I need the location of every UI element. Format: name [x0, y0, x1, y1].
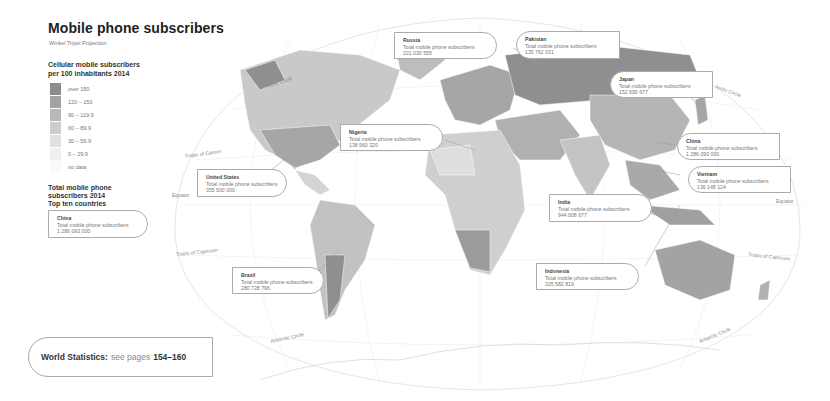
legend-item: 60 – 89.9 — [50, 122, 94, 134]
antarctic-circle-label-west: Antarctic Circle — [270, 331, 304, 344]
world-statistics-reference: World Statistics: see pages 154–160 — [28, 337, 213, 377]
callout-india: India Total mobile phone subscribers 944… — [549, 194, 652, 222]
callout-value: 138 960 320 — [349, 142, 436, 149]
equator-label-east: Equator — [776, 198, 794, 204]
page-range: 154–160 — [153, 352, 186, 362]
projection-subtitle: Winkel Tripel Projection — [49, 40, 106, 46]
top-ten-example-callout: China Total mobile phone subscribers 1 2… — [48, 210, 148, 238]
antarctic-circle-label-east: Antarctic Circle — [698, 326, 732, 344]
legend-label: 0 – 29.9 — [68, 151, 88, 157]
legend-label: 30 – 59.9 — [68, 138, 91, 144]
top-ten-title-line3: Top ten countries — [48, 200, 112, 208]
legend-item: 90 – 119.9 — [50, 109, 94, 121]
legend-item: no data — [50, 161, 94, 173]
map-title: Mobile phone subscribers — [48, 20, 224, 36]
legend-label: 90 – 119.9 — [68, 112, 94, 118]
legend-item: 120 – 150 — [50, 96, 94, 108]
legend-item: over 150 — [50, 83, 94, 95]
legend-title: Cellular mobile subscribers per 100 inha… — [48, 61, 140, 78]
legend-item: 0 – 29.9 — [50, 148, 94, 160]
callout-japan: Japan Total mobile phone subscribers 152… — [610, 71, 713, 98]
legend-title-line1: Cellular mobile subscribers — [48, 61, 140, 70]
see-pages-text: see pages — [111, 352, 150, 362]
top-ten-title-line1: Total mobile phone — [48, 184, 112, 192]
legend-label: no data — [68, 164, 86, 170]
tropic-capricorn-label-east: Tropic of Capricorn — [748, 251, 791, 261]
legend-item: 30 – 59.9 — [50, 135, 94, 147]
callout-value: 152 695 677 — [619, 89, 706, 96]
legend-swatch — [50, 83, 61, 95]
legend-label: 60 – 89.9 — [68, 125, 91, 131]
legend-swatch — [50, 148, 61, 160]
callout-value: 355 500 000 — [206, 187, 280, 194]
top-ten-title-line2: subscribers 2014 — [48, 192, 112, 200]
callout-russia: Russia Total mobile phone subscribers 22… — [394, 32, 497, 59]
legend-label: 120 – 150 — [68, 99, 92, 105]
callout-value: 280 728 796 — [241, 285, 317, 292]
callout-value: 135 762 031 — [525, 49, 613, 56]
legend-swatch — [50, 109, 61, 121]
callout-vietnam: Vietnam Total mobile phone subscribers 1… — [688, 166, 791, 193]
legend-swatch — [50, 161, 61, 173]
callout-china: China Total mobile phone subscribers 1 2… — [677, 133, 780, 160]
callout-value: 944 008 677 — [558, 212, 645, 219]
equator-label-west: Equator — [172, 192, 190, 198]
callout-brazil: Brazil Total mobile phone subscribers 28… — [232, 267, 324, 294]
top-ten-title: Total mobile phone subscribers 2014 Top … — [48, 184, 112, 208]
callout-united-states: United States Total mobile phone subscri… — [197, 169, 287, 197]
callout-value: 1 286 093 000 — [57, 228, 141, 235]
callout-indonesia: Indonesia Total mobile phone subscribers… — [536, 263, 639, 290]
legend-swatch — [50, 122, 61, 134]
tropic-cancer-label: Tropic of Cancer — [184, 148, 222, 159]
callout-value: 1 286 093 000 — [686, 151, 773, 158]
callout-value: 136 148 124 — [697, 184, 784, 191]
legend-swatch — [50, 135, 61, 147]
callout-value: 221 030 555 — [403, 50, 490, 57]
callout-nigeria: Nigeria Total mobile phone subscribers 1… — [340, 124, 443, 151]
legend-label: over 150 — [68, 86, 89, 92]
legend-title-line2: per 100 inhabitants 2014 — [48, 70, 140, 79]
legend-swatch — [50, 96, 61, 108]
callout-pakistan: Pakistan Total mobile phone subscribers … — [516, 31, 620, 59]
world-statistics-label: World Statistics: — [41, 352, 108, 362]
legend: over 150 120 – 150 90 – 119.9 60 – 89.9 … — [50, 83, 94, 174]
callout-value: 325 582 819 — [545, 281, 632, 288]
